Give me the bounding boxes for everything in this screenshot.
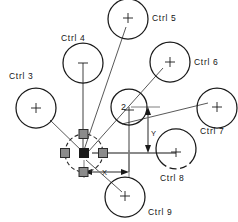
cad-diagram-canvas: Y X Ctrl 3 Ctrl 4 Ctr <box>0 0 238 222</box>
handle-center[interactable] <box>80 149 89 158</box>
x-arrow-right <box>121 169 129 175</box>
ctrl-5-label: Ctrl 5 <box>152 13 177 23</box>
control-ctrl-8[interactable]: Ctrl 8 <box>156 129 196 183</box>
ctrl-7-label: Ctrl 7 <box>200 126 225 136</box>
handle-top[interactable] <box>79 130 88 139</box>
y-arrow-bottom <box>145 145 151 153</box>
ctrl-4-label: Ctrl 4 <box>61 33 86 43</box>
leader-line-ctrl-5 <box>84 27 126 150</box>
ctrl-8-label: Ctrl 8 <box>160 173 185 183</box>
control-ctrl-5[interactable]: Ctrl 5 <box>108 0 177 39</box>
handle-left[interactable] <box>61 149 70 158</box>
ctrl-3-label: Ctrl 3 <box>9 71 34 81</box>
handle-bottom[interactable] <box>79 168 88 177</box>
y-dimension-label: Y <box>151 129 156 138</box>
control-ctrl-7[interactable]: Ctrl 7 <box>197 88 237 136</box>
ctrl-9-label: Ctrl 9 <box>148 207 173 217</box>
control-ctrl-4[interactable]: Ctrl 4 <box>61 33 103 83</box>
leader-line-ctrl-7 <box>122 103 208 124</box>
x-dimension-label: X <box>102 168 107 177</box>
ctrl-8-arc-solid[interactable] <box>156 129 196 162</box>
control-ctrl-9[interactable]: Ctrl 9 <box>105 177 173 217</box>
ctrl-8-arc-dashed[interactable] <box>161 162 191 169</box>
control-ctrl-6[interactable]: Ctrl 6 <box>150 42 219 82</box>
ctrl-6-label: Ctrl 6 <box>194 57 219 67</box>
control-ctrl-3[interactable]: Ctrl 3 <box>9 71 56 128</box>
diagram-svg: Y X Ctrl 3 Ctrl 4 Ctr <box>0 0 238 222</box>
handle-right[interactable] <box>99 149 108 158</box>
node-2-label: 2 <box>121 102 126 112</box>
